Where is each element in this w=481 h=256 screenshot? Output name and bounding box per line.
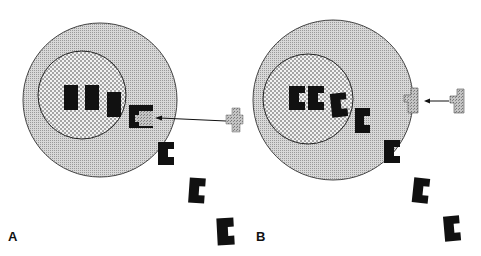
c-shape-a-3 (216, 218, 234, 246)
c-shape-a-1 (158, 142, 174, 165)
c-shape-b-6 (412, 177, 431, 204)
diagram-canvas (0, 0, 481, 256)
arrow-b (424, 99, 449, 104)
c-shape-b-5 (384, 140, 400, 163)
block-a-1 (64, 85, 78, 110)
receptor-complex-a (129, 105, 153, 128)
c-shape-b-7 (443, 215, 461, 241)
panel-a (23, 23, 243, 245)
c-shape-a-2 (188, 177, 206, 203)
panel-label-b: B (256, 229, 265, 244)
block-a-2 (85, 85, 99, 110)
panel-label-a: A (8, 229, 17, 244)
ligand-t-b (450, 89, 464, 113)
block-a-3 (107, 92, 121, 117)
ligand-cross-a (226, 108, 243, 132)
panel-b (253, 20, 464, 242)
